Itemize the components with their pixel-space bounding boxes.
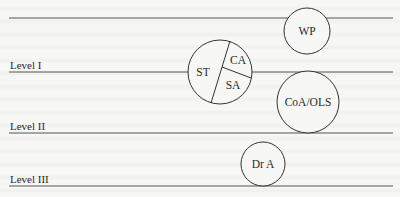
node-st-ca-sa: ST CA SA [188, 40, 252, 104]
level-1-label: Level I [10, 59, 42, 71]
node-ca-label: CA [230, 54, 247, 66]
level-3-label: Level III [10, 173, 49, 185]
node-dr-a-label: Dr A [252, 158, 275, 170]
node-wp: WP [284, 8, 330, 54]
node-dr-a: Dr A [241, 142, 285, 186]
node-wp-label: WP [298, 25, 315, 37]
node-coa-ols: CoA/OLS [277, 71, 339, 133]
node-sa-label: SA [226, 79, 241, 91]
level-2-label: Level II [10, 120, 45, 132]
levels-diagram: Level I Level II Level III WP ST CA SA C… [0, 0, 400, 197]
node-coa-ols-label: CoA/OLS [285, 96, 332, 108]
node-st-label: ST [196, 66, 209, 78]
